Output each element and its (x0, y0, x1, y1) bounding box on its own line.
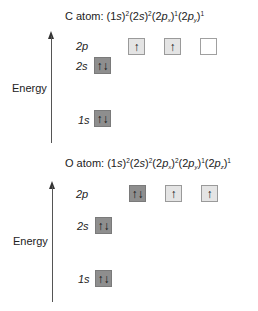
energy-label: Energy (12, 82, 47, 94)
level-label-2s: 2s (76, 60, 88, 72)
orbital-box-1s: ↑↓ (94, 110, 111, 127)
config-term: (2s)2 (129, 10, 152, 22)
orbital-box-1s: ↑↓ (95, 270, 112, 287)
level-label-2p: 2p (76, 188, 88, 200)
level-label-2p: 2p (76, 40, 88, 52)
orbital-box-2px: ↑↓ (129, 185, 146, 202)
config-term: (2px)2 (152, 157, 178, 169)
orbital-box-2pz: ↑ (201, 185, 218, 202)
orbital-box-2py: ↑ (165, 185, 182, 202)
level-label-2s: 2s (77, 220, 89, 232)
oxygen-config-title: O atom: (1s)2(2s)2(2px)2(2py)1(2pz)1 (65, 157, 231, 170)
energy-axis (52, 186, 53, 302)
title-prefix: O atom: (65, 157, 104, 169)
config-term: (2py)1 (178, 10, 204, 22)
orbital-box-2py: ↑ (164, 38, 181, 55)
electron-configuration: (1s)2(2s)2(2px)1(2py)1 (107, 10, 205, 22)
orbital-box-2s: ↑↓ (95, 217, 112, 234)
config-term: (2s)2 (130, 157, 153, 169)
energy-axis (51, 36, 52, 143)
level-label-1s: 1s (78, 114, 90, 126)
config-term: (2pz)1 (205, 157, 231, 169)
orbital-box-2pz (200, 38, 217, 55)
config-term: (2px)1 (152, 10, 178, 22)
carbon-config-title: C atom: (1s)2(2s)2(2px)1(2py)1 (65, 10, 204, 23)
config-term: (1s)2 (107, 157, 130, 169)
level-label-1s: 1s (78, 273, 90, 285)
electron-configuration: (1s)2(2s)2(2px)2(2py)1(2pz)1 (107, 157, 231, 169)
config-term: (2py)1 (179, 157, 205, 169)
title-prefix: C atom: (65, 10, 104, 22)
config-term: (1s)2 (107, 10, 130, 22)
energy-label: Energy (13, 235, 48, 247)
orbital-box-2s: ↑↓ (94, 57, 111, 74)
orbital-box-2px: ↑ (128, 38, 145, 55)
